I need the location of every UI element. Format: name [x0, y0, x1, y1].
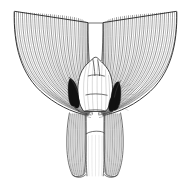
- illustration-figure: Caudal fin and peduncle, ventral aspect …: [0, 0, 190, 184]
- median-notch: [88, 23, 103, 62]
- caudal-fin-illustration: Caudal fin and peduncle, ventral aspect …: [0, 0, 190, 184]
